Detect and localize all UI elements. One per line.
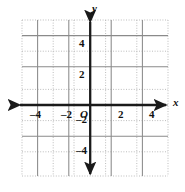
origin-label: O — [80, 109, 88, 120]
x-tick-label-2: 2 — [118, 109, 124, 120]
axis-lines — [20, 22, 166, 174]
coordinate-grid-svg — [0, 0, 185, 192]
major-grid-lines — [22, 20, 168, 176]
coordinate-plane-figure: –4 –2 2 4 4 2 –2 –4 O x y — [0, 0, 185, 192]
y-tick-label-2: 2 — [79, 69, 85, 80]
x-tick-label-neg4: –4 — [30, 109, 41, 120]
minor-grid-lines — [22, 20, 168, 176]
x-tick-label-neg2: –2 — [61, 109, 72, 120]
y-axis-label: y — [92, 3, 97, 14]
y-tick-label-4: 4 — [79, 38, 85, 49]
x-axis-label: x — [173, 97, 179, 108]
x-tick-label-4: 4 — [149, 109, 155, 120]
y-tick-label-neg4: –4 — [76, 145, 87, 156]
